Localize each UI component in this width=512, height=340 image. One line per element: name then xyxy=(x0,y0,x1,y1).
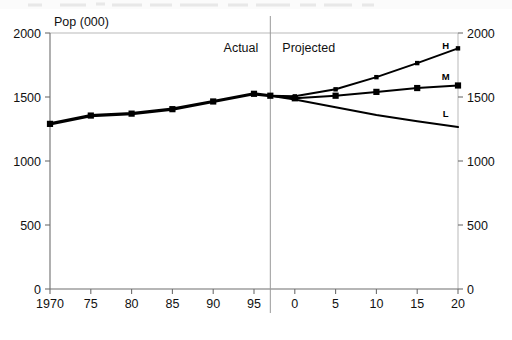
x-tick-label: 95 xyxy=(247,297,261,311)
cropped-title-fragment xyxy=(60,4,86,7)
x-tick-label: 1970 xyxy=(36,297,64,311)
y-axis-title: Pop (000) xyxy=(54,15,109,29)
x-tick-label: 20 xyxy=(451,297,465,311)
x-tick-label: 80 xyxy=(125,297,139,311)
cropped-title-fragment xyxy=(362,4,374,7)
cropped-title-fragment xyxy=(228,4,248,7)
series-marker-medium xyxy=(333,93,339,99)
series-line-low xyxy=(270,96,458,127)
x-tick-label: 75 xyxy=(84,297,98,311)
cropped-title-fragment xyxy=(180,4,218,7)
y-tick-label: 2000 xyxy=(13,27,41,41)
cropped-title-fragment xyxy=(150,4,172,7)
cropped-title-fragment xyxy=(112,4,142,7)
region-label-projected: Projected xyxy=(282,41,335,55)
series-marker-medium xyxy=(373,89,379,95)
series-marker-actual xyxy=(129,111,135,117)
region-label-actual: Actual xyxy=(224,41,259,55)
series-marker-medium xyxy=(455,82,461,88)
y-tick-label-right: 1500 xyxy=(467,91,495,105)
series-marker-high xyxy=(415,61,419,65)
series-marker-high xyxy=(333,87,337,91)
series-marker-high xyxy=(456,46,460,50)
y-tick-label-right: 0 xyxy=(467,283,474,297)
y-tick-label: 0 xyxy=(34,283,41,297)
y-tick-label: 1500 xyxy=(13,91,41,105)
x-tick-label: 85 xyxy=(165,297,179,311)
series-marker-actual xyxy=(88,112,94,118)
x-tick-label: 0 xyxy=(291,297,298,311)
x-tick-label: 5 xyxy=(332,297,339,311)
y-tick-label-right: 500 xyxy=(467,219,488,233)
series-label-medium: M xyxy=(442,71,450,82)
cropped-title-fragment xyxy=(28,4,42,7)
cropped-title-fragment xyxy=(300,4,316,7)
x-tick-label: 90 xyxy=(206,297,220,311)
series-marker-medium xyxy=(414,85,420,91)
y-tick-label-right: 1000 xyxy=(467,155,495,169)
cropped-title-fragment xyxy=(256,4,290,7)
chart-canvas: 0500100015002000050010001500200019707580… xyxy=(0,0,512,340)
y-tick-label: 500 xyxy=(20,219,41,233)
x-tick-label: 15 xyxy=(410,297,424,311)
series-marker-actual xyxy=(210,98,216,104)
population-projection-chart: 0500100015002000050010001500200019707580… xyxy=(0,0,512,340)
series-line-actual xyxy=(50,94,270,124)
y-tick-label-right: 2000 xyxy=(467,27,495,41)
series-marker-actual xyxy=(169,106,175,112)
cropped-title-fragment xyxy=(96,3,105,6)
series-label-high: H xyxy=(442,40,449,51)
series-marker-actual xyxy=(251,91,257,97)
x-tick-label: 10 xyxy=(369,297,383,311)
series-label-low: L xyxy=(443,108,449,119)
series-line-high xyxy=(270,48,458,96)
cropped-title-fragment xyxy=(324,4,352,7)
series-marker-actual xyxy=(47,121,53,127)
series-marker-high xyxy=(374,75,378,79)
y-tick-label: 1000 xyxy=(13,155,41,169)
